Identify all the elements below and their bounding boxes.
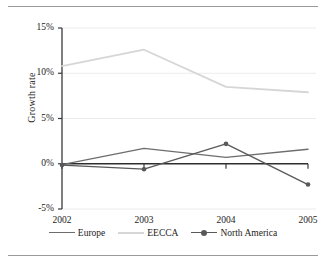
y-tick-label: -5%: [22, 203, 54, 213]
legend-item-north-america[interactable]: North America: [191, 228, 277, 238]
legend-label: North America: [220, 228, 277, 238]
legend-item-eecca[interactable]: EECCA: [118, 228, 178, 238]
legend-marker-dot-icon: [201, 230, 207, 236]
chart-legend: EuropeEECCANorth America: [0, 228, 326, 238]
y-axis-title: Growth rate: [26, 53, 37, 143]
x-tick-label: 2003: [124, 215, 164, 225]
x-tick-label: 2002: [42, 215, 82, 225]
y-tick-label: 15%: [22, 22, 54, 32]
legend-swatch-icon: [49, 228, 75, 238]
series-eecca: [62, 50, 308, 93]
legend-item-europe[interactable]: Europe: [49, 228, 105, 238]
gridlines: [62, 28, 316, 209]
y-tick-label: 0%: [22, 158, 54, 168]
x-tick-label: 2005: [288, 215, 326, 225]
legend-swatch-icon: [118, 228, 144, 238]
figure: Growth rate 15%10%5%0%-5% 20022003200420…: [0, 0, 326, 268]
legend-label: EECCA: [147, 228, 178, 238]
y-tick-label: 10%: [22, 67, 54, 77]
legend-swatch-icon: [191, 228, 217, 238]
legend-label: Europe: [78, 228, 105, 238]
x-tick-label: 2004: [206, 215, 246, 225]
y-tick-label: 5%: [22, 113, 54, 123]
